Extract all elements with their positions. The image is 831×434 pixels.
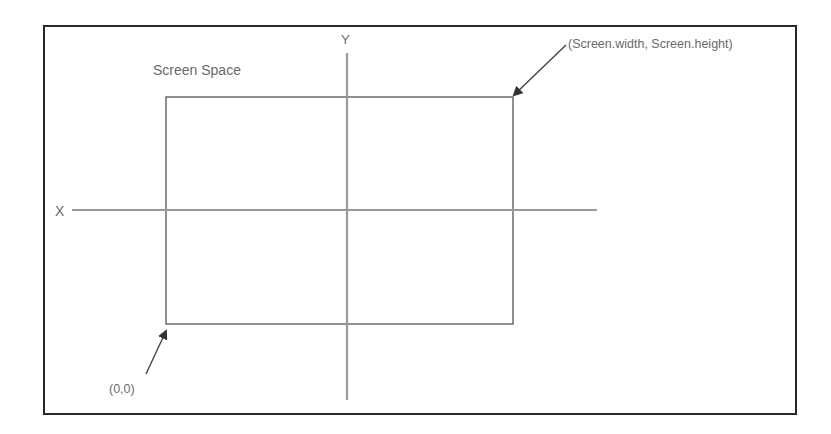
y-axis-label: Y: [341, 33, 350, 46]
screen-space-title: Screen Space: [153, 63, 241, 77]
diagram-canvas: [0, 0, 831, 434]
top-right-corner-label: (Screen.width, Screen.height): [568, 38, 733, 51]
x-axis-label: X: [55, 204, 64, 218]
bottom-left-arrow: [146, 331, 166, 374]
origin-corner-label: (0,0): [109, 383, 135, 396]
top-right-arrow: [514, 45, 566, 95]
